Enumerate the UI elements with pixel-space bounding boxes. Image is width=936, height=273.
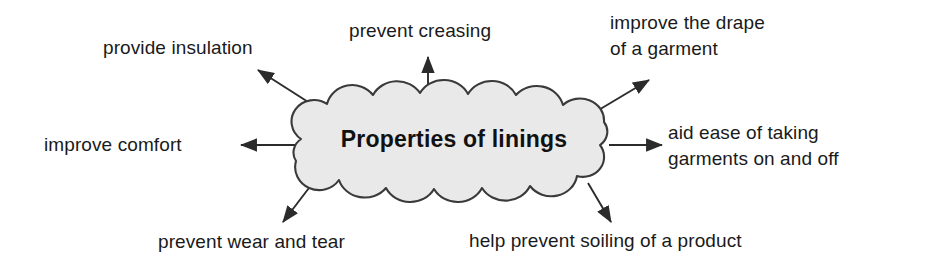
- branch-label-improve-drape: improve the drapeof a garment: [610, 10, 765, 62]
- branch-label-line-1: improve the drape: [610, 12, 765, 33]
- arrow-improve-drape: [597, 80, 649, 111]
- branch-label-improve-comfort: improve comfort: [44, 132, 182, 158]
- branch-label-line-1: aid ease of taking: [668, 122, 819, 143]
- arrow-help-prevent-soiling: [588, 183, 611, 222]
- branch-label-aid-ease: aid ease of takinggarments on and off: [668, 120, 839, 172]
- branch-label-line-2: of a garment: [610, 38, 718, 59]
- branch-label-line-2: garments on and off: [668, 148, 839, 169]
- center-node-title: Properties of linings: [298, 126, 610, 153]
- branch-label-prevent-creasing: prevent creasing: [349, 18, 491, 44]
- arrow-prevent-wear: [283, 184, 312, 222]
- branch-label-prevent-wear: prevent wear and tear: [158, 229, 345, 255]
- branch-label-provide-insulation: provide insulation: [103, 35, 253, 61]
- diagram-canvas: Properties of linings provide insulation…: [0, 0, 936, 273]
- branch-label-help-prevent-soiling: help prevent soiling of a product: [469, 228, 742, 254]
